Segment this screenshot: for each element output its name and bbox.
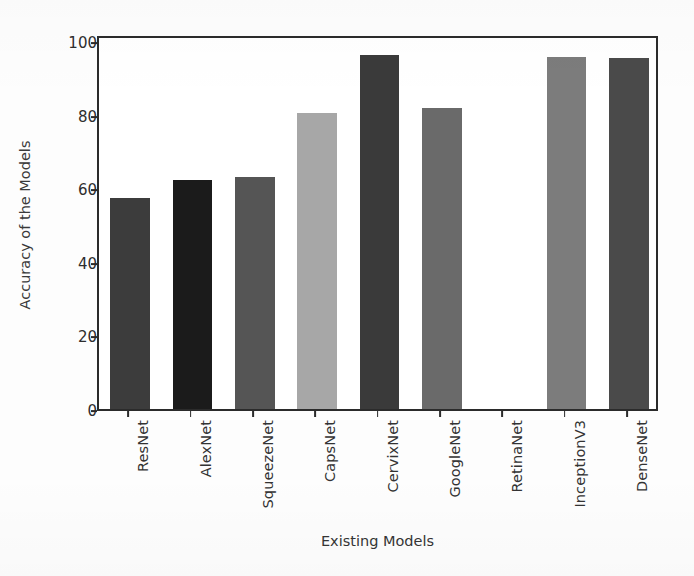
y-axis-title-text: Accuracy of the Models — [17, 141, 33, 310]
plot-area — [97, 36, 658, 411]
x-tick-mark — [501, 411, 503, 417]
bar-chart-figure: Accuracy of the Models 020406080100 ResN… — [0, 0, 694, 576]
x-axis-tick-labels: ResNetAlexNetSqueezeNetCapsNetCervixNetG… — [97, 420, 658, 530]
bar-rect — [173, 180, 213, 409]
bar-rect — [360, 55, 400, 409]
bar-alexnet — [173, 180, 213, 409]
bar-resnet — [110, 198, 150, 409]
x-tick-label-retinanet: RetinaNet — [509, 420, 525, 493]
x-tick-label-resnet: ResNet — [135, 420, 151, 472]
x-tick-label-alexnet: AlexNet — [198, 420, 214, 477]
bar-series — [99, 38, 656, 409]
x-tick-mark — [564, 411, 566, 417]
bar-inceptionv3 — [547, 57, 587, 409]
y-axis-tick-labels: 020406080100 — [43, 36, 97, 411]
x-tick-mark — [314, 411, 316, 417]
bar-squeezenet — [235, 177, 275, 409]
x-tick-mark — [439, 411, 441, 417]
x-axis-title: Existing Models — [97, 533, 658, 549]
bar-capsnet — [297, 113, 337, 409]
x-tick-label-capsnet: CapsNet — [322, 420, 338, 482]
bar-rect — [547, 57, 587, 409]
x-tick-label-inceptionv3: InceptionV3 — [572, 420, 588, 508]
bar-rect — [422, 108, 462, 409]
x-tick-mark — [377, 411, 379, 417]
x-tick-mark — [127, 411, 129, 417]
x-tick-mark — [252, 411, 254, 417]
x-tick-mark — [190, 411, 192, 417]
x-tick-label-googlenet: GoogleNet — [447, 420, 463, 498]
x-tick-label-densenet: DenseNet — [634, 420, 650, 492]
y-axis-title: Accuracy of the Models — [10, 30, 40, 420]
bar-rect — [297, 113, 337, 409]
bar-rect — [609, 58, 649, 409]
x-tick-mark — [626, 411, 628, 417]
x-tick-label-cervixnet: CervixNet — [385, 420, 401, 493]
bar-rect — [110, 198, 150, 409]
x-tick-label-squeezenet: SqueezeNet — [260, 420, 276, 508]
bar-rect — [235, 177, 275, 409]
bar-cervixnet — [360, 55, 400, 409]
x-axis-tick-marks — [97, 411, 658, 419]
bar-densenet — [609, 58, 649, 409]
bar-googlenet — [422, 108, 462, 409]
